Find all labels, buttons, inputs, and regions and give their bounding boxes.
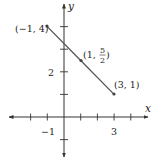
point-label-3-1: (3, 1)	[114, 79, 140, 90]
x-tick-label-3: 3	[111, 126, 117, 137]
coordinate-plane: x y −1 3 2 (−1, 4) (1, 5 2 ) (3, 1)	[0, 0, 157, 168]
label-close: )	[106, 49, 110, 60]
point-label-neg1-4: (−1, 4)	[15, 23, 49, 34]
y-tick-label-2: 2	[48, 67, 54, 78]
point-3-1	[112, 92, 115, 95]
x-axis-label: x	[145, 102, 151, 114]
label-open: (1,	[83, 49, 96, 60]
x-tick-label-neg1: −1	[41, 126, 55, 137]
y-axis-label: y	[67, 0, 75, 12]
label-denominator: 2	[100, 56, 105, 65]
point-label-1-5halves: (1, 5 2 )	[83, 46, 110, 65]
label-numerator: 5	[100, 46, 105, 55]
